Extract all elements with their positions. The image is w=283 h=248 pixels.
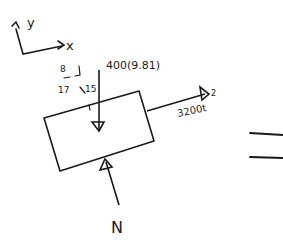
equals-sign-icon [250, 133, 283, 158]
angle-top-label: 8 [60, 64, 66, 74]
normal-force-label: N [111, 218, 123, 237]
y-axis-label: y [27, 15, 35, 30]
angle-right-label: 15 [85, 84, 96, 94]
axes-icon [12, 22, 64, 54]
x-axis-label: x [66, 38, 74, 53]
free-body-diagram: y x 400(9.81) 8 17 15 3200t 2 N [0, 0, 283, 248]
applied-force-exponent: 2 [211, 89, 216, 98]
angle-left-label: 17 [58, 85, 69, 95]
weight-label: 400(9.81) [106, 59, 160, 72]
normal-force-arrow-icon [100, 159, 119, 205]
applied-force-label: 3200t [176, 102, 207, 119]
weight-arrow-icon [92, 70, 104, 131]
